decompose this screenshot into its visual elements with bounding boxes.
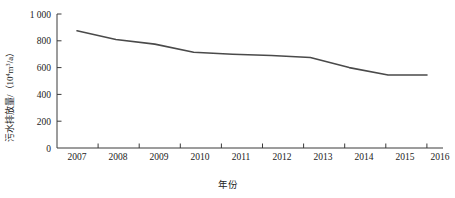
chart-figure: 污水排放量/（104m3/a） 1 000 800 600 400 200 0	[0, 0, 455, 198]
x-tick-label: 2011	[232, 152, 251, 162]
data-series-line	[77, 31, 427, 75]
y-tick-label: 1 000	[30, 10, 52, 20]
y-axis-title-main: 污水排放量/（10	[4, 76, 15, 142]
axis-lines	[57, 14, 443, 148]
y-axis-ticks	[57, 14, 62, 121]
x-tick-label: 2016	[431, 152, 450, 162]
x-tick-label: 2013	[314, 152, 333, 162]
y-axis-tick-labels: 1 000 800 600 400 200 0	[30, 10, 52, 154]
y-tick-label: 600	[37, 63, 52, 73]
svg-text:污水排放量/（104m3/a）: 污水排放量/（104m3/a）	[4, 48, 15, 142]
y-tick-label: 200	[37, 117, 52, 127]
x-axis-title: 年份	[218, 179, 238, 190]
x-axis-tick-labels: 2007 2008 2009 2010 2011 2012 2013 2014 …	[68, 152, 450, 162]
x-tick-label: 2007	[68, 152, 87, 162]
x-tick-label: 2010	[191, 152, 210, 162]
x-tick-label: 2008	[109, 152, 128, 162]
y-tick-label: 400	[37, 90, 52, 100]
y-axis-title-unit-mid: m	[5, 66, 15, 73]
x-tick-label: 2015	[396, 152, 415, 162]
y-tick-label: 800	[37, 36, 52, 46]
x-axis-ticks	[98, 144, 427, 149]
y-axis-title-unit-tail: /a）	[5, 48, 15, 64]
x-tick-label: 2009	[150, 152, 169, 162]
x-tick-label: 2012	[273, 152, 292, 162]
y-axis-title: 污水排放量/（104m3/a）	[4, 48, 15, 142]
line-chart: 污水排放量/（104m3/a） 1 000 800 600 400 200 0	[0, 0, 455, 198]
x-tick-label: 2014	[355, 152, 374, 162]
y-tick-label: 0	[46, 144, 51, 154]
